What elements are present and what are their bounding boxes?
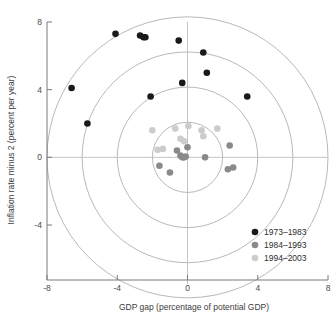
data-point (167, 169, 174, 176)
legend-label-3: 1994–2003 (264, 253, 307, 263)
data-point (175, 37, 182, 44)
y-axis-title: Inflation rate minus 2 (percent per year… (6, 75, 16, 224)
x-tick-label--4: -4 (113, 283, 121, 293)
data-point (202, 154, 209, 161)
data-point (198, 127, 205, 134)
data-point (147, 93, 154, 100)
data-point (230, 164, 237, 171)
data-point (149, 127, 156, 134)
data-point (160, 146, 167, 153)
scatter-plot-canvas: -8-4048840-4 1973–19831984–19931994–2003… (0, 0, 336, 324)
x-tick-label-8: 8 (326, 283, 331, 293)
data-point (226, 142, 233, 149)
data-point (200, 49, 207, 56)
x-tick-label-4: 4 (255, 283, 260, 293)
data-point (68, 85, 75, 92)
data-point (204, 69, 211, 76)
data-points-group (68, 31, 250, 176)
x-axis-title: GDP gap (percentage of potential GDP) (119, 302, 269, 312)
data-point (172, 125, 179, 132)
data-point (200, 133, 207, 140)
data-point (181, 138, 188, 145)
legend-marker-1 (252, 229, 259, 236)
y-tick-label--4: -4 (34, 220, 42, 230)
data-point (179, 80, 186, 87)
y-tick-label-8: 8 (37, 17, 42, 27)
legend-marker-3 (252, 255, 259, 262)
x-tick-label--8: -8 (43, 283, 51, 293)
data-point (214, 125, 221, 132)
data-point (182, 153, 189, 160)
legend-group: 1973–19831984–19931994–2003 (252, 227, 307, 263)
data-point (142, 34, 149, 41)
data-point (112, 31, 119, 38)
data-point (244, 93, 251, 100)
data-point (84, 120, 91, 127)
y-tick-label-4: 4 (37, 85, 42, 95)
x-tick-label-0: 0 (185, 283, 190, 293)
chart-figure: -8-4048840-4 1973–19831984–19931994–2003… (0, 0, 336, 324)
legend-label-2: 1984–1993 (264, 240, 307, 250)
data-point (184, 144, 191, 151)
legend-label-1: 1973–1983 (264, 227, 307, 237)
y-tick-label-0: 0 (37, 152, 42, 162)
legend-marker-2 (252, 242, 259, 249)
data-point (185, 123, 192, 130)
data-point (156, 162, 163, 169)
